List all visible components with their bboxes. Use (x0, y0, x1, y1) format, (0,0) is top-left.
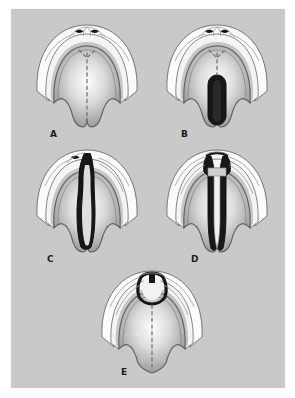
panel-b (155, 17, 279, 129)
panel-d (155, 142, 279, 254)
panel-a (25, 17, 149, 129)
panel-e (90, 263, 214, 375)
figure-panel: A (11, 9, 285, 388)
premaxilla-cap (208, 168, 226, 176)
alveolar-cleft-notch (149, 273, 155, 283)
cleft-lumen-highlight (213, 80, 221, 122)
panel-label-a: A (50, 130, 57, 139)
panel-label-b: B (181, 130, 188, 139)
premaxilla-segment (214, 174, 220, 248)
panel-label-c: C (47, 255, 54, 264)
panel-c (25, 142, 149, 254)
panel-label-e: E (121, 368, 127, 377)
